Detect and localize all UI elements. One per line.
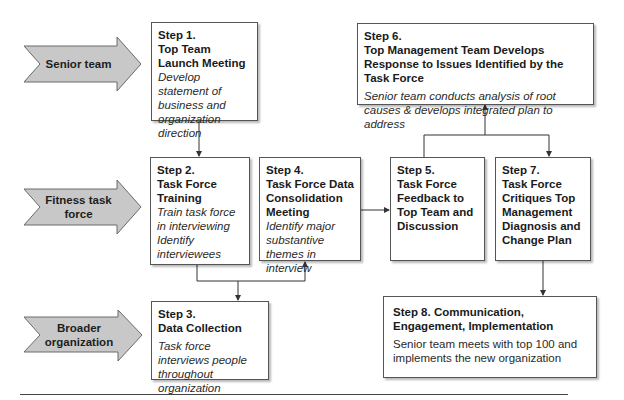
step-8-description: Senior team meets with top 100 and imple… bbox=[393, 337, 587, 365]
step-3-box: Step 3. Data Collection Task force inter… bbox=[151, 301, 269, 380]
step-8-box: Step 8. Communication, Engagement, Imple… bbox=[383, 296, 597, 378]
lane-label-fitness: Fitness task force bbox=[40, 189, 117, 225]
step-6-description: Senior team conducts analysis of root ca… bbox=[364, 89, 587, 131]
connector-s5-split bbox=[424, 135, 549, 157]
lane-label-broader: Broader organization bbox=[40, 317, 118, 352]
step-8-number: Step 8. bbox=[393, 306, 431, 318]
step-1-title: Top Team Launch Meeting bbox=[158, 42, 251, 70]
step-4-box: Step 4. Task Force Data Consolidation Me… bbox=[259, 157, 361, 261]
step-7-title: Task Force Critiques Top Management Diag… bbox=[502, 177, 584, 247]
bottom-divider bbox=[20, 394, 568, 395]
step-3-number: Step 3. bbox=[158, 307, 262, 321]
step-6-box: Step 6. Top Management Team Develops Res… bbox=[357, 23, 594, 105]
step-4-title: Task Force Data Consolidation Meeting bbox=[266, 177, 354, 219]
lane-label-senior: Senior team bbox=[40, 46, 117, 82]
step-5-box: Step 5. Task Force Feedback to Top Team … bbox=[390, 157, 485, 261]
step-8-title: Step 8. Communication, Engagement, Imple… bbox=[393, 305, 587, 333]
step-4-number: Step 4. bbox=[266, 163, 354, 177]
step-6-number: Step 6. bbox=[364, 29, 587, 43]
step-1-description: Develop statement of business and organi… bbox=[158, 70, 251, 140]
step-2-number: Step 2. bbox=[157, 163, 243, 177]
step-2-title: Task Force Training bbox=[157, 177, 243, 205]
step-6-title: Top Management Team Develops Response to… bbox=[364, 43, 587, 85]
process-diagram: Senior team Fitness task force Broader o… bbox=[0, 0, 624, 400]
step-7-box: Step 7. Task Force Critiques Top Managem… bbox=[495, 157, 591, 261]
step-3-description: Task force interviews people throughout … bbox=[158, 339, 262, 395]
step-1-number: Step 1. bbox=[158, 28, 251, 42]
step-5-number: Step 5. bbox=[397, 163, 478, 177]
step-2-description: Train task force in interviewing Identif… bbox=[157, 205, 243, 261]
step-3-title: Data Collection bbox=[158, 321, 262, 335]
step-4-description: Identify major substantive themes in int… bbox=[266, 219, 354, 275]
step-1-box: Step 1. Top Team Launch Meeting Develop … bbox=[151, 22, 258, 121]
step-5-title: Task Force Feedback to Top Team and Disc… bbox=[397, 177, 478, 233]
step-2-box: Step 2. Task Force Training Train task f… bbox=[150, 157, 250, 265]
step-7-number: Step 7. bbox=[502, 163, 584, 177]
